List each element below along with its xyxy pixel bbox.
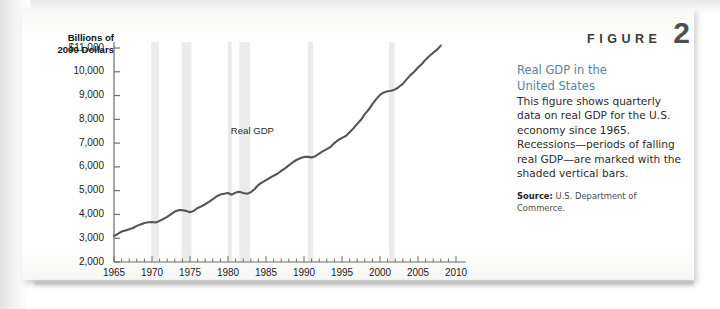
caption-source: Source: U.S. Department of Commerce. — [517, 191, 682, 214]
caption-block: Real GDP in the United States This figur… — [517, 63, 682, 214]
recession-band — [151, 42, 159, 262]
caption-title-line-2: United States — [517, 79, 682, 94]
x-axis-label: 1985 — [255, 267, 277, 278]
caption-body: This figure shows quarterly data on real… — [517, 94, 682, 180]
x-axis-label: 1990 — [293, 267, 315, 278]
x-axis-label: 1975 — [179, 267, 201, 278]
gdp-chart: Billions of 2000 Dollars 2,0003,0004,000… — [36, 30, 476, 280]
x-axis-label: 2010 — [445, 267, 467, 278]
y-axis-label: 6,000 — [42, 160, 104, 171]
figure-page: FIGURE 2 Real GDP in the United States T… — [0, 0, 720, 309]
y-axis-label: 9,000 — [42, 89, 104, 100]
x-axis-label: 1995 — [331, 267, 353, 278]
recession-band — [308, 42, 313, 262]
x-axis-label: 1980 — [217, 267, 239, 278]
figure-label: FIGURE — [587, 32, 661, 46]
y-axis-label: 7,000 — [42, 137, 104, 148]
y-axis-label: 5,000 — [42, 184, 104, 195]
y-axis-label: 2,000 — [42, 256, 104, 267]
y-axis-label: $11,000 — [42, 42, 104, 53]
recession-band — [228, 42, 232, 262]
recession-band — [182, 42, 192, 262]
y-axis-label: 3,000 — [42, 232, 104, 243]
x-axis-label: 2005 — [407, 267, 429, 278]
y-axis-label: 4,000 — [42, 208, 104, 219]
x-axis-label: 1965 — [103, 267, 125, 278]
figure-number: 2 — [673, 18, 690, 48]
series-annotation-real-gdp: Real GDP — [231, 125, 274, 136]
figure-header: FIGURE 2 — [587, 18, 690, 48]
x-axis-label: 1970 — [141, 267, 163, 278]
recession-band — [239, 42, 250, 262]
caption-title-line-1: Real GDP in the — [517, 63, 682, 78]
card-drop-shadow — [34, 281, 694, 288]
y-axis-label: 10,000 — [42, 65, 104, 76]
x-axis-label: 2000 — [369, 267, 391, 278]
y-axis-label: 8,000 — [42, 113, 104, 124]
recession-band — [389, 42, 394, 262]
source-label: Source: — [517, 191, 553, 201]
